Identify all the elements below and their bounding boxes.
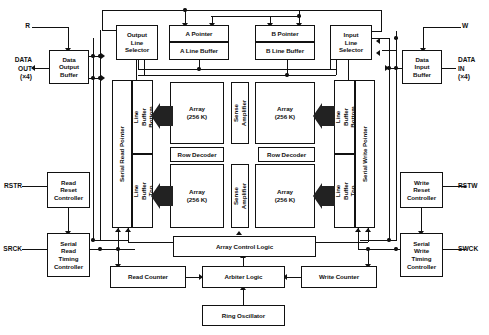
- block-input-line-selector[interactable]: Input Line Selector: [330, 25, 372, 60]
- block-write-line-buffer-bottom-label: Write Line Buffer Bottom Block: [334, 106, 355, 127]
- arrow-up-into-srp: [115, 228, 121, 232]
- block-serial-write-pointer[interactable]: Serial Write Pointer: [355, 80, 375, 228]
- wire-acl-loop-left: [93, 240, 129, 241]
- wire-top-rail-a: [102, 10, 382, 11]
- wire-input-selector-down: [348, 60, 349, 82]
- junction-dot: [285, 73, 288, 76]
- junction-dot: [91, 76, 94, 79]
- block-array-top-left[interactable]: Array (256 K): [170, 82, 224, 144]
- pin-label-srck: SRCK: [0, 245, 22, 254]
- block-serial-write-pointer-label: Serial Write Pointer: [361, 126, 369, 182]
- junction-dot: [197, 67, 200, 70]
- junction-dot: [387, 238, 390, 241]
- block-write-line-buffer-top[interactable]: Write Line Buffer Top Block: [334, 154, 355, 228]
- wire-top-rail-a-left-drop: [102, 10, 103, 30]
- block-array-bottom-right[interactable]: Array (256 K): [255, 164, 315, 228]
- block-array-bottom-left[interactable]: Array (256 K): [170, 164, 224, 228]
- block-arrow-write-top-right: [313, 103, 335, 129]
- block-arrow-read-bottom-left: [151, 183, 173, 209]
- wire-w-input: [423, 27, 461, 28]
- junction-dot: [394, 66, 397, 69]
- wire-top-rail-a-left-run: [102, 30, 116, 31]
- block-arrow-write-bottom-right: [313, 183, 335, 209]
- wire-w-down: [423, 27, 424, 50]
- wire-left-rail-2: [100, 30, 101, 240]
- block-b-line-buffer[interactable]: B Line Buffer: [255, 42, 315, 60]
- block-serial-read-timing-controller[interactable]: Serial Read Timing Controller: [47, 233, 90, 277]
- junction-dot: [297, 14, 300, 17]
- block-row-decoder-right[interactable]: Row Decoder: [258, 147, 315, 162]
- wire-data-out: [35, 68, 49, 69]
- wire-pointer-return-rail-2: [138, 75, 336, 76]
- block-write-line-buffer-bottom[interactable]: Write Line Buffer Bottom Block: [334, 80, 355, 154]
- block-write-line-buffer-top-label: Write Line Buffer Top Block: [334, 182, 355, 200]
- arrow-up-into-swp: [365, 228, 371, 232]
- pin-label-rstw: RSTW: [458, 182, 488, 191]
- junction-dot: [91, 238, 94, 241]
- wire-arbiter-to-acl: [243, 257, 244, 266]
- fifo-memory-block-diagram: R W DATA OUT (×4) DATA IN (×4) RSTR RSTW…: [0, 0, 489, 335]
- block-a-pointer[interactable]: A Pointer: [169, 25, 229, 42]
- wire-right-rail-tap-2: [382, 50, 396, 51]
- block-write-counter[interactable]: Write Counter: [301, 266, 377, 288]
- block-b-pointer[interactable]: B Pointer: [255, 25, 315, 42]
- pin-label-swck: SWCK: [458, 245, 488, 254]
- arrow-up-into-sense-amp: [236, 231, 242, 235]
- arrow-up-into-wlb: [355, 228, 361, 232]
- block-data-output-buffer[interactable]: Data Output Buffer: [49, 50, 89, 84]
- block-output-line-selector[interactable]: Output Line Selector: [116, 25, 158, 60]
- junction-dot: [387, 66, 390, 69]
- block-read-line-buffer-bottom[interactable]: Read Line Buffer Bottom Block: [132, 80, 153, 154]
- block-serial-read-pointer-label: Serial Read Pointer: [118, 126, 126, 182]
- junction-dot: [366, 247, 369, 250]
- pin-label-w: W: [462, 22, 486, 31]
- wire-write-reset-to-timing: [421, 208, 422, 233]
- arrow-up-into-rlb: [125, 228, 131, 232]
- wire-left-rail-1: [93, 38, 94, 240]
- block-read-line-buffer-top[interactable]: Read Line Buffer Top Block: [132, 154, 153, 228]
- pin-label-data-out: DATA OUT (×4): [0, 56, 32, 82]
- wire-return-left-up-2: [144, 60, 145, 75]
- wire-acl-loop-right: [360, 240, 397, 241]
- block-ring-oscillator[interactable]: Ring Oscillator: [202, 305, 285, 326]
- pin-label-r: R: [4, 22, 30, 31]
- arrow-into-input-selector-2: [376, 50, 380, 56]
- pin-label-rstr: RSTR: [0, 182, 22, 191]
- wire-write-counter-to-arbiter: [285, 277, 301, 278]
- junction-dot: [183, 8, 186, 11]
- wire-srtc-out: [90, 249, 135, 250]
- wire-return-right-up-1: [330, 60, 331, 69]
- wire-pointer-return-rail-1: [138, 69, 336, 70]
- wire-acl-left-feed: [128, 242, 173, 243]
- block-array-control-logic[interactable]: Array Control Logic: [173, 236, 316, 257]
- junction-dot: [91, 54, 94, 57]
- wire-top-rail-a-right-drop: [381, 10, 382, 31]
- junction-dot: [98, 54, 101, 57]
- block-read-line-buffer-top-label: Read Line Buffer Top Block: [132, 182, 153, 200]
- block-a-line-buffer[interactable]: A Line Buffer: [169, 42, 229, 60]
- block-sense-amplifier-top[interactable]: Sense Amplifier: [231, 82, 249, 144]
- block-sense-amplifier-bottom-label: Sense Amplifier: [232, 183, 248, 209]
- block-array-top-right[interactable]: Array (256 K): [255, 82, 315, 144]
- block-serial-read-pointer[interactable]: Serial Read Pointer: [112, 80, 132, 228]
- block-read-reset-controller[interactable]: Read Reset Controller: [47, 172, 90, 208]
- junction-dot: [98, 247, 101, 250]
- block-data-input-buffer[interactable]: Data Input Buffer: [402, 50, 442, 84]
- wire-srck-in: [22, 249, 47, 250]
- wire-output-selector-down: [136, 60, 137, 82]
- block-sense-amplifier-top-label: Sense Amplifier: [232, 100, 248, 126]
- block-arbiter-logic[interactable]: Arbiter Logic: [202, 266, 285, 288]
- block-row-decoder-left[interactable]: Row Decoder: [170, 147, 224, 162]
- block-write-reset-controller[interactable]: Write Reset Controller: [400, 172, 443, 208]
- block-serial-write-timing-controller[interactable]: Serial Write Timing Controller: [400, 233, 443, 277]
- wire-data-in: [442, 68, 456, 69]
- wire-right-rail-2: [396, 31, 397, 240]
- wire-return-right-up-2: [336, 60, 337, 75]
- block-sense-amplifier-bottom[interactable]: Sense Amplifier: [231, 164, 249, 228]
- wire-top-rail-b: [211, 16, 301, 17]
- junction-dot: [116, 247, 119, 250]
- wire-r-down: [68, 27, 69, 50]
- junction-dot: [394, 247, 397, 250]
- block-read-counter[interactable]: Read Counter: [110, 266, 186, 288]
- junction-dot: [98, 76, 101, 79]
